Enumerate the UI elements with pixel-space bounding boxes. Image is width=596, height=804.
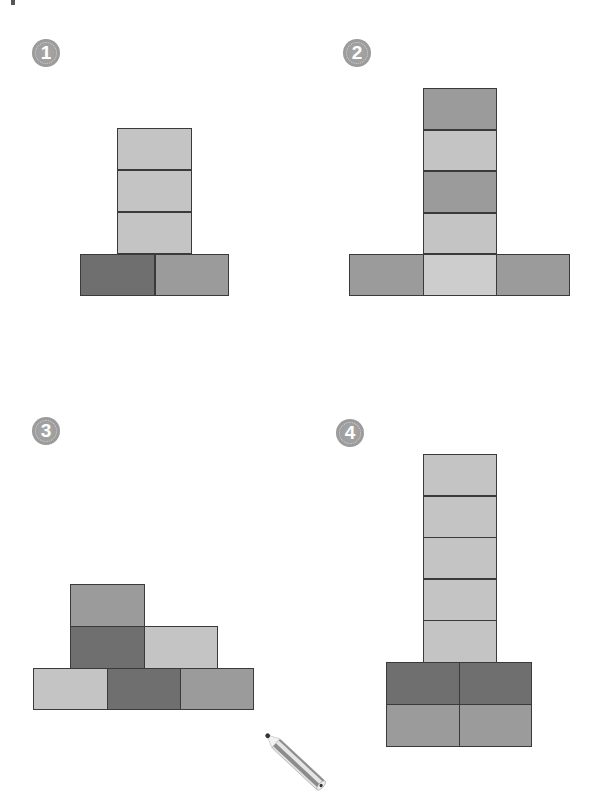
block-dark xyxy=(107,668,181,710)
block-light xyxy=(423,579,497,621)
block-light xyxy=(423,130,497,171)
figure-number-badge: 1 xyxy=(32,39,60,67)
block-lighter xyxy=(423,254,497,296)
block-dark xyxy=(386,662,460,705)
figure-number-badge: 3 xyxy=(32,417,60,445)
block-medium xyxy=(386,704,460,747)
block-medium xyxy=(349,254,424,296)
block-dark xyxy=(70,626,145,669)
block-medium xyxy=(423,171,497,213)
block-light xyxy=(423,537,497,579)
block-dark xyxy=(459,662,532,705)
block-dark xyxy=(80,254,155,296)
block-light xyxy=(117,212,192,254)
block-light xyxy=(117,170,192,212)
block-medium xyxy=(180,668,254,710)
block-light xyxy=(144,626,218,669)
block-light xyxy=(33,668,108,710)
pencil-icon xyxy=(258,726,333,796)
block-light xyxy=(423,213,497,254)
block-light xyxy=(423,496,497,538)
block-light xyxy=(117,128,192,170)
block-light xyxy=(423,620,497,663)
corner-mark xyxy=(11,0,15,5)
block-medium xyxy=(423,88,497,130)
figure-number-badge: 4 xyxy=(336,419,364,447)
block-medium xyxy=(70,584,145,627)
block-medium xyxy=(496,254,570,296)
block-light xyxy=(423,454,497,496)
block-medium xyxy=(155,254,229,296)
figure-number-badge: 2 xyxy=(343,39,371,67)
block-medium xyxy=(459,704,532,747)
